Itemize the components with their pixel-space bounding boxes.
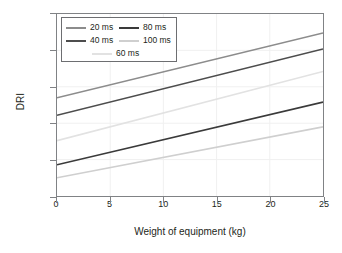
legend-entry: 80 ms [119,23,172,32]
legend-entry: 40 ms [66,36,119,45]
legend-swatch-icon [119,27,139,29]
legend-swatch-icon [92,53,112,55]
x-axis-title: Weight of equipment (kg) [56,226,324,237]
legend-entry: 60 ms [92,49,148,58]
legend-entry: 100 ms [119,36,172,45]
legend-swatch-icon [119,40,139,42]
x-tick-mark [217,197,218,203]
legend-label: 80 ms [143,23,166,32]
legend-label: 60 ms [116,49,139,58]
legend-label: 100 ms [143,36,171,45]
legend-entry: 20 ms [66,23,119,32]
series-line-80-ms [57,102,323,165]
x-tick-mark [324,197,325,203]
legend-row: 60 ms [66,47,172,60]
x-tick-mark [163,197,164,203]
y-axis-title: DRI [15,72,26,132]
legend-swatch-icon [66,27,86,29]
legend-label: 40 ms [90,36,113,45]
x-tick-mark [110,197,111,203]
x-tick-mark [270,197,271,203]
legend-label: 20 ms [90,23,113,32]
legend-row: 20 ms80 ms [66,21,172,34]
chart-legend: 20 ms80 ms40 ms100 ms60 ms [61,17,177,62]
legend-row: 40 ms100 ms [66,34,172,47]
series-line-100-ms [57,127,323,178]
chart-figure: 51015202530 DRI 0510152025 Weight of equ… [0,0,342,253]
legend-swatch-icon [66,40,86,42]
x-tick-mark [56,197,57,203]
